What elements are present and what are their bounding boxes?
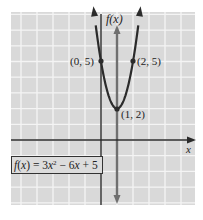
formula-eq: = 3 <box>30 159 48 171</box>
point-label-1-2: (1, 2) <box>121 108 145 121</box>
formula-plus: + 5 <box>80 159 98 171</box>
point-1-2 <box>114 106 119 111</box>
curve-arrow-left-icon <box>91 6 98 16</box>
parabola-graph: f(x) x (0, 5) (2, 5) (1, 2) <box>0 0 203 220</box>
point-label-0-5: (0, 5) <box>70 55 94 68</box>
function-legend: f(x) = 3x2 − 6x + 5 <box>11 156 103 174</box>
formula-minus: − 6 <box>57 159 75 171</box>
curve-arrow-right-icon <box>136 6 143 16</box>
y-axis-label: f(x) <box>106 12 123 26</box>
x-axis-label: x <box>185 143 191 155</box>
point-label-2-5: (2, 5) <box>137 55 161 68</box>
point-2-5 <box>130 58 135 63</box>
point-0-5 <box>98 58 103 63</box>
